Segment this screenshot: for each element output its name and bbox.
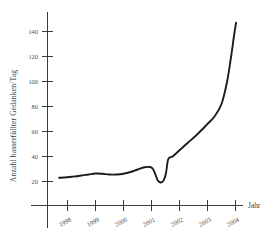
y-tick-label: 100 bbox=[28, 78, 38, 85]
y-tick-label: 60 bbox=[32, 128, 38, 135]
x-tick-label: 1999 bbox=[86, 216, 101, 228]
x-tick-label: 2004 bbox=[226, 215, 241, 228]
x-axis-title: Jahr bbox=[248, 201, 261, 210]
y-tick-label: 20 bbox=[32, 178, 38, 185]
x-tick-label-group: 1998 1999 2000 2001 2002 2003 2004 bbox=[58, 215, 241, 228]
data-series-line bbox=[59, 23, 236, 183]
y-tick-label-group: 140 120 100 80 60 40 20 bbox=[28, 28, 38, 185]
x-tick-label: 1998 bbox=[58, 216, 73, 228]
y-tick-label: 40 bbox=[32, 153, 38, 160]
x-tick-label: 2000 bbox=[114, 216, 129, 228]
y-tick-label: 80 bbox=[32, 103, 38, 110]
line-chart: 140 120 100 80 60 40 20 Anzahl hasserfül… bbox=[0, 0, 277, 243]
x-tick-label: 2001 bbox=[142, 216, 157, 228]
chart-container: 140 120 100 80 60 40 20 Anzahl hasserfül… bbox=[0, 0, 277, 243]
y-tick-label: 140 bbox=[28, 28, 38, 35]
x-tick-label: 2002 bbox=[170, 216, 185, 228]
x-tick-label: 2003 bbox=[198, 216, 213, 228]
y-axis-title: Anzahl hasserfüllter Gedanken/Tag bbox=[9, 70, 18, 182]
y-tick-label: 120 bbox=[28, 53, 38, 60]
